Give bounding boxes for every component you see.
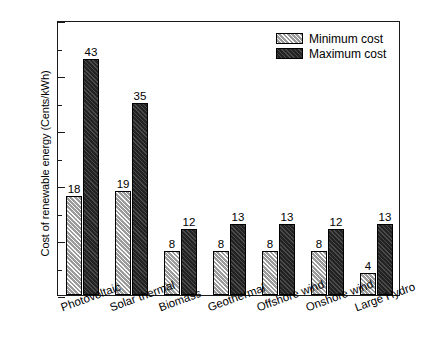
bar-minimum bbox=[213, 251, 230, 295]
legend-item-minimum-cost: Minimum cost bbox=[276, 32, 386, 45]
plot-area: 01020304050 18431935812813813812413 Mini… bbox=[57, 21, 400, 296]
bar-maximum bbox=[377, 224, 394, 296]
bar-value-label: 13 bbox=[273, 211, 302, 223]
bar-chart: Cost of renewable energy (Cents/kWh) 010… bbox=[0, 0, 422, 344]
bar-value-label: 13 bbox=[224, 211, 253, 223]
legend-label-maximum-cost: Maximum cost bbox=[309, 48, 386, 60]
legend: Minimum cost Maximum cost bbox=[276, 32, 386, 62]
bar-maximum bbox=[279, 224, 296, 296]
y-tick-major bbox=[58, 242, 65, 243]
bar-minimum bbox=[115, 191, 132, 296]
y-axis-title: Cost of renewable energy (Cents/kWh) bbox=[40, 39, 51, 289]
y-tick-major bbox=[58, 77, 65, 78]
bar-maximum bbox=[132, 103, 149, 296]
bar-value-label: 12 bbox=[322, 216, 351, 228]
bar-maximum bbox=[181, 229, 198, 295]
y-tick-minor bbox=[58, 270, 62, 271]
bar-value-label: 12 bbox=[175, 216, 204, 228]
legend-swatch-minimum-cost bbox=[276, 33, 303, 44]
legend-swatch-maximum-cost bbox=[276, 48, 303, 59]
bar-value-label: 35 bbox=[126, 90, 155, 102]
legend-label-minimum-cost: Minimum cost bbox=[309, 33, 383, 45]
bar-maximum bbox=[83, 59, 100, 296]
y-tick-major bbox=[58, 297, 65, 298]
bar-value-label: 43 bbox=[77, 46, 106, 58]
bar-maximum bbox=[230, 224, 247, 296]
y-tick-major bbox=[58, 22, 65, 23]
y-tick-minor bbox=[58, 50, 62, 51]
y-tick-minor bbox=[58, 160, 62, 161]
bar-maximum bbox=[328, 229, 345, 295]
y-tick-major bbox=[58, 132, 65, 133]
bar-value-label: 13 bbox=[371, 211, 400, 223]
y-tick-minor bbox=[58, 215, 62, 216]
y-tick-minor bbox=[58, 105, 62, 106]
bar-minimum bbox=[66, 196, 83, 295]
legend-item-maximum-cost: Maximum cost bbox=[276, 47, 386, 60]
